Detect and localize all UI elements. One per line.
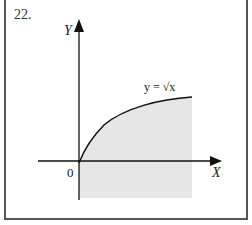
sqrt-area-diagram: Y X 0 y = √x [0,0,252,225]
y-axis-label: Y [64,23,74,38]
y-axis-arrow-icon [74,19,84,32]
curve-label: y = √x [144,80,175,94]
shaded-region [79,97,192,198]
x-axis-label: X [211,165,221,180]
origin-label: 0 [67,165,74,180]
